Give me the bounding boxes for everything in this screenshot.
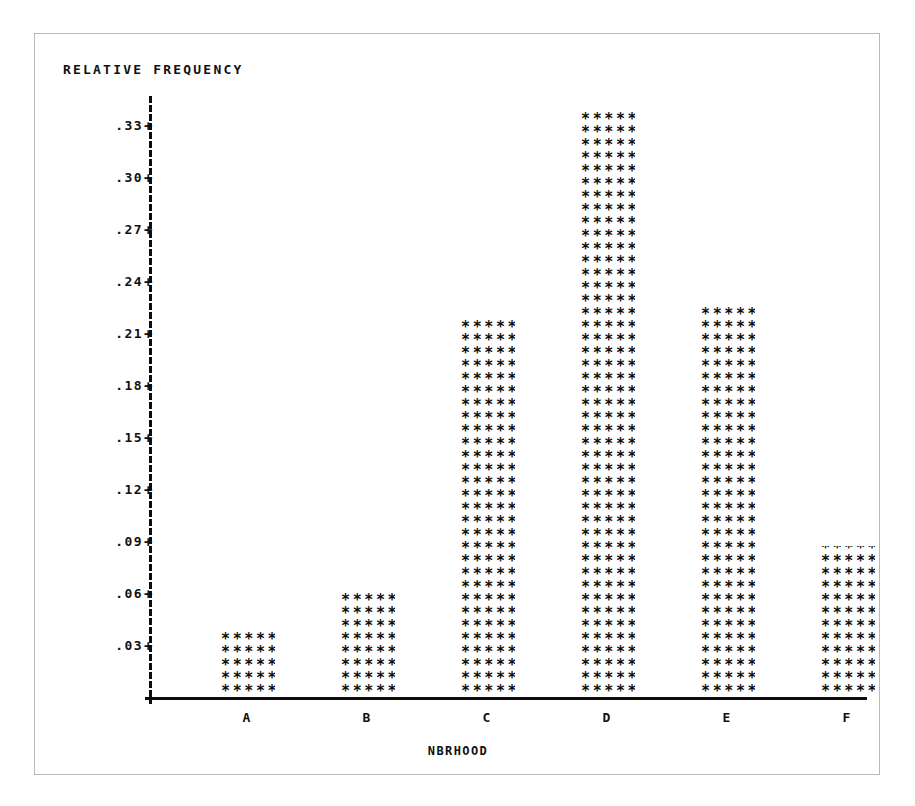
y-axis-tick-label: .33 — [115, 119, 143, 133]
y-axis-tick-label: .27 — [115, 223, 143, 237]
y-axis-tick: .15+ — [35, 431, 167, 445]
bar-e: ****************************************… — [699, 289, 755, 698]
y-axis-tick-mark: + — [144, 639, 152, 653]
bar-asterisk-row: ***** — [819, 685, 875, 698]
y-axis-tick-label: .06 — [115, 587, 143, 601]
bar-fill: ****************************************… — [819, 546, 875, 699]
y-axis-tick-mark: + — [144, 431, 152, 445]
y-axis-tick-label: .03 — [115, 639, 143, 653]
page-canvas: RELATIVE FREQUENCY .33+.30+.27+.24+.21+.… — [0, 0, 915, 806]
bar-d: ****************************************… — [579, 95, 635, 698]
x-axis-label-c: C — [459, 710, 515, 725]
y-axis-tick: .09+ — [35, 535, 167, 549]
bar-asterisk-row: ***** — [219, 685, 275, 698]
x-axis-label-d: D — [579, 710, 635, 725]
bar-a: ************************* — [219, 632, 275, 698]
bar-fill: ************************* — [219, 633, 275, 698]
asterisk-bar-chart: RELATIVE FREQUENCY .33+.30+.27+.24+.21+.… — [35, 34, 881, 776]
y-axis-tick-label: .09 — [115, 535, 143, 549]
x-axis-label-a: A — [219, 710, 275, 725]
y-axis-tick-mark: + — [144, 535, 152, 549]
y-axis-tick-mark: + — [144, 379, 152, 393]
y-axis-tick: .21+ — [35, 327, 167, 341]
bar-asterisk-row: ***** — [339, 685, 395, 698]
y-axis-tick-mark: + — [144, 223, 152, 237]
y-axis-tick: .24+ — [35, 275, 167, 289]
y-axis-tick-label: .30 — [115, 171, 143, 185]
y-axis-tick-label: .15 — [115, 431, 143, 445]
y-axis-tick-label: .24 — [115, 275, 143, 289]
y-axis-tick-mark: + — [144, 483, 152, 497]
bar-asterisk-row: ***** — [579, 685, 635, 698]
y-axis-tick: .30+ — [35, 171, 167, 185]
y-axis-tick: .06+ — [35, 587, 167, 601]
bar-b: **************************************** — [339, 592, 395, 698]
y-axis-tick-mark: + — [144, 587, 152, 601]
bar-fill: ****************************************… — [579, 113, 635, 698]
x-axis-label-e: E — [699, 710, 755, 725]
bar-asterisk-row: ***** — [459, 685, 515, 698]
y-axis-tick-mark: + — [144, 119, 152, 133]
bar-asterisk-row: ***** — [699, 685, 755, 698]
y-axis-tick-mark: + — [144, 327, 152, 341]
x-axis-label-b: B — [339, 710, 395, 725]
y-axis-tick-mark: + — [144, 171, 152, 185]
y-axis-tick-mark: + — [144, 275, 152, 289]
y-axis-tick: .33+ — [35, 119, 167, 133]
bar-c: ****************************************… — [459, 308, 515, 698]
y-axis-tick: .03+ — [35, 639, 167, 653]
bar-fill: ****************************************… — [699, 308, 755, 698]
bar-fill: **************************************** — [339, 594, 395, 698]
chart-title: RELATIVE FREQUENCY — [63, 62, 243, 77]
bar-fill: ****************************************… — [459, 321, 515, 698]
y-axis-tick: .18+ — [35, 379, 167, 393]
y-axis-tick: .12+ — [35, 483, 167, 497]
y-axis-tick-label: .21 — [115, 327, 143, 341]
bar-f: ****************************************… — [819, 546, 875, 699]
x-axis-label-f: F — [819, 710, 875, 725]
y-axis-line — [149, 96, 152, 704]
x-axis-title: NBRHOOD — [35, 744, 881, 758]
y-axis-tick: .27+ — [35, 223, 167, 237]
chart-frame: RELATIVE FREQUENCY .33+.30+.27+.24+.21+.… — [34, 33, 880, 775]
y-axis-tick-label: .12 — [115, 483, 143, 497]
y-axis-tick-label: .18 — [115, 379, 143, 393]
